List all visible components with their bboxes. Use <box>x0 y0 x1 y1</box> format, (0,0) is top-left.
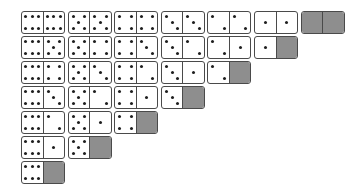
pip-icon <box>58 102 61 105</box>
pip-icon <box>171 46 174 49</box>
pip-icon <box>171 96 174 99</box>
pip-icon <box>105 40 108 43</box>
domino-half-right <box>44 137 65 158</box>
pip-icon <box>223 77 226 80</box>
domino-5-4[interactable] <box>68 36 112 59</box>
pip-icon <box>130 102 133 105</box>
domino-half-right <box>137 37 158 58</box>
pip-icon <box>176 52 179 55</box>
pip-icon <box>93 27 96 30</box>
pip-icon <box>83 40 86 43</box>
domino-6-2[interactable] <box>21 111 65 134</box>
pip-icon <box>37 52 40 55</box>
domino-0-0[interactable] <box>301 11 345 34</box>
domino-half-left <box>69 62 91 83</box>
domino-half-right <box>90 62 111 83</box>
pip-icon <box>31 27 34 30</box>
pip-icon <box>72 15 75 18</box>
pip-icon <box>140 27 143 30</box>
pip-icon <box>58 40 61 43</box>
domino-5-2[interactable] <box>68 86 112 109</box>
domino-2-2[interactable] <box>207 11 251 34</box>
domino-6-6[interactable] <box>21 11 65 34</box>
domino-2-0[interactable] <box>207 61 251 84</box>
pip-icon <box>24 140 27 143</box>
pip-icon <box>105 77 108 80</box>
domino-1-1[interactable] <box>254 11 298 34</box>
domino-half-left <box>69 12 91 33</box>
domino-2-1[interactable] <box>207 36 251 59</box>
pip-icon <box>59 15 62 18</box>
pip-icon <box>93 40 96 43</box>
pip-icon <box>165 40 168 43</box>
pip-icon <box>59 27 62 30</box>
pip-icon <box>130 77 133 80</box>
pip-icon <box>24 115 27 118</box>
pip-icon <box>198 52 201 55</box>
pip-icon <box>46 15 49 18</box>
pip-icon <box>83 52 86 55</box>
domino-half-left <box>208 62 230 83</box>
domino-3-1[interactable] <box>161 61 205 84</box>
pip-icon <box>37 77 40 80</box>
domino-6-5[interactable] <box>21 36 65 59</box>
domino-5-1[interactable] <box>68 111 112 134</box>
domino-5-3[interactable] <box>68 61 112 84</box>
pip-icon <box>176 102 179 105</box>
pip-icon <box>37 15 40 18</box>
pip-icon <box>31 140 34 143</box>
pip-icon <box>83 77 86 80</box>
pip-icon <box>31 102 34 105</box>
domino-1-0[interactable] <box>254 36 298 59</box>
pip-icon <box>47 115 50 118</box>
domino-half-left <box>162 37 184 58</box>
domino-4-2[interactable] <box>114 61 158 84</box>
pip-icon <box>83 152 86 155</box>
pip-icon <box>83 15 86 18</box>
pip-icon <box>151 15 154 18</box>
domino-half-left <box>208 37 230 58</box>
domino-half-right <box>44 62 65 83</box>
pip-icon <box>93 52 96 55</box>
domino-half-right <box>44 12 65 33</box>
domino-6-4[interactable] <box>21 61 65 84</box>
pip-icon <box>46 27 49 30</box>
pip-icon <box>83 27 86 30</box>
domino-4-0[interactable] <box>114 111 158 134</box>
pip-icon <box>47 90 50 93</box>
pip-icon <box>83 102 86 105</box>
pip-icon <box>239 46 242 49</box>
domino-half-left <box>22 87 44 108</box>
domino-5-0[interactable] <box>68 136 112 159</box>
pip-icon <box>72 127 75 130</box>
pip-icon <box>223 27 226 30</box>
domino-5-5[interactable] <box>68 11 112 34</box>
pip-icon <box>244 27 247 30</box>
pip-icon <box>37 165 40 168</box>
domino-half-left <box>115 12 137 33</box>
pip-icon <box>31 90 34 93</box>
domino-6-1[interactable] <box>21 136 65 159</box>
pip-icon <box>37 140 40 143</box>
domino-3-0[interactable] <box>161 86 205 109</box>
pip-icon <box>52 15 55 18</box>
domino-half-left <box>69 112 91 133</box>
domino-4-4[interactable] <box>114 11 158 34</box>
pip-icon <box>24 102 27 105</box>
pip-icon <box>52 46 55 49</box>
domino-3-3[interactable] <box>161 11 205 34</box>
domino-6-3[interactable] <box>21 86 65 109</box>
domino-4-3[interactable] <box>114 36 158 59</box>
pip-icon <box>233 15 236 18</box>
pip-icon <box>52 96 55 99</box>
domino-half-right <box>277 37 298 58</box>
pip-icon <box>211 15 214 18</box>
pip-icon <box>171 71 174 74</box>
pip-icon <box>31 65 34 68</box>
domino-half-right <box>183 87 204 108</box>
domino-half-left <box>162 12 184 33</box>
pip-icon <box>31 40 34 43</box>
domino-3-2[interactable] <box>161 36 205 59</box>
domino-6-0[interactable] <box>21 161 65 184</box>
domino-4-1[interactable] <box>114 86 158 109</box>
